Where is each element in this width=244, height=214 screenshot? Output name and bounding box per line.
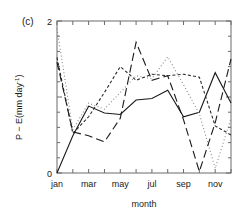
- x-axis-title: month: [131, 199, 156, 209]
- left-axis-ticks: [57, 21, 62, 173]
- series-short-dashed: [57, 57, 231, 135]
- x-tick-label-nov: nov: [208, 179, 223, 189]
- x-tick-label-jan: jan: [50, 179, 63, 189]
- y-axis-title: P − E(mm day-1): [14, 75, 24, 140]
- x-tick-label-mar: mar: [81, 179, 97, 189]
- y-axis-title-main: P − E(mm day: [14, 82, 24, 140]
- x-tick-label-may: may: [112, 179, 130, 189]
- series-long-dashed: [57, 42, 231, 171]
- bottom-axis-ticks: [57, 169, 231, 173]
- x-tick-labels: janmarmayjulsepnov: [50, 179, 223, 189]
- chart-svg: (c) P − E(mm day-1) 2 0 janmarmayjulsepn…: [0, 0, 244, 214]
- series-solid: [57, 73, 231, 173]
- y-tick-label-2: 2: [47, 17, 52, 27]
- svg-text:P − E(mm day-1): P − E(mm day-1): [14, 75, 24, 140]
- x-tick-label-sep: sep: [176, 179, 191, 189]
- y-axis-title-tail: ): [14, 75, 24, 78]
- top-axis-ticks: [57, 21, 231, 25]
- y-tick-label-0: 0: [47, 169, 52, 179]
- x-tick-label-jul: jul: [146, 179, 156, 189]
- figure-panel-c: (c) P − E(mm day-1) 2 0 janmarmayjulsepn…: [0, 0, 244, 214]
- data-series-layer: [57, 29, 231, 173]
- right-axis-ticks: [226, 21, 231, 173]
- panel-label: (c): [22, 16, 34, 27]
